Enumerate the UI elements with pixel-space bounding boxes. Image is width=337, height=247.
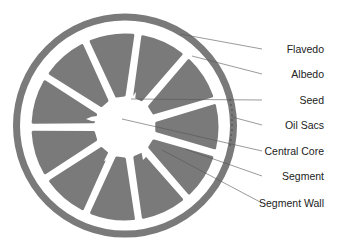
label-oil-sacs: Oil Sacs	[285, 119, 324, 131]
central-core-shape	[112, 114, 138, 140]
label-central-core: Central Core	[264, 145, 324, 157]
label-seed: Seed	[299, 94, 324, 106]
label-segment-wall: Segment Wall	[259, 197, 324, 209]
leader-line-albedo	[192, 56, 262, 74]
label-segment: Segment	[282, 170, 324, 182]
label-flavedo: Flavedo	[287, 43, 324, 55]
segment-shape	[157, 106, 217, 148]
label-albedo: Albedo	[291, 68, 324, 80]
